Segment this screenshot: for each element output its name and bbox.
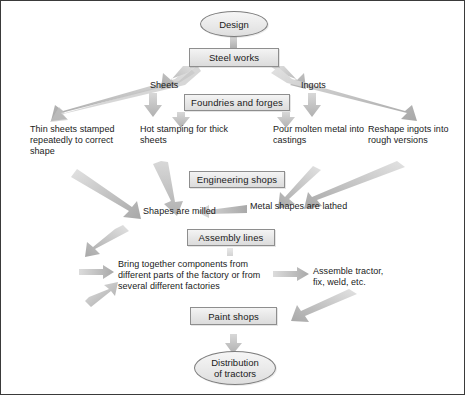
label-sheets: Sheets	[150, 80, 178, 91]
node-foundries-label: Foundries and forges	[191, 97, 283, 108]
node-steel-works-label: Steel works	[209, 52, 259, 63]
arrow-milled-to-bring-together	[85, 225, 129, 257]
arrow-assembly-lines-down	[227, 248, 233, 256]
label-sheets-text: Sheets	[150, 80, 178, 90]
label-bring-together-line1: Bring together components from	[118, 259, 303, 270]
label-reshape-ingots-line1: Reshape ingots into	[368, 124, 463, 135]
label-thin-sheets-line3: shape	[30, 146, 135, 157]
label-ingots-text: Ingots	[301, 80, 326, 90]
label-bring-together-line2: different parts of the factory or from	[118, 270, 303, 281]
label-thin-sheets-line2: repeatedly to correct	[30, 135, 135, 146]
label-hot-stamping-line2: sheets	[140, 135, 250, 146]
node-assembly-lines[interactable]: Assembly lines	[187, 229, 275, 246]
label-metal-shapes-lathed: Metal shapes are lathed	[250, 201, 400, 212]
label-reshape-ingots: Reshape ingots into rough versions	[368, 124, 463, 146]
arrow-feed-bring-together-lower	[85, 282, 118, 307]
node-distribution-of-tractors[interactable]: Distribution of tractors	[194, 351, 276, 385]
label-hot-stamping: Hot stamping for thick sheets	[140, 124, 250, 146]
arrow-ingots-down	[303, 93, 321, 117]
label-shapes-milled-line1: Shapes are milled	[143, 206, 253, 217]
node-engineering-shops[interactable]: Engineering shops	[189, 171, 285, 188]
label-assemble-tractor: Assemble tractor, fix, weld, etc.	[313, 266, 408, 288]
node-foundries-and-forges[interactable]: Foundries and forges	[184, 94, 290, 111]
diagram-canvas: Design Steel works Foundries and forges …	[0, 0, 465, 395]
label-thin-sheets-stamped: Thin sheets stamped repeatedly to correc…	[30, 124, 135, 158]
arrow-steelworks-to-reshape	[271, 67, 417, 121]
node-distribution-line1: Distribution	[211, 357, 259, 368]
label-thin-sheets-line1: Thin sheets stamped	[30, 124, 135, 135]
node-steel-works[interactable]: Steel works	[189, 48, 279, 67]
label-bring-together-components: Bring together components from different…	[118, 259, 303, 293]
node-distribution-line2: of tractors	[214, 368, 256, 379]
arrow-assemble-to-paint-shops	[291, 289, 357, 322]
node-paint-shops-label: Paint shops	[208, 311, 259, 322]
arrow-feed-bring-together-middle	[79, 265, 114, 279]
node-assembly-lines-label: Assembly lines	[199, 232, 264, 243]
node-paint-shops[interactable]: Paint shops	[190, 307, 277, 325]
label-assemble-tractor-line1: Assemble tractor,	[313, 266, 408, 277]
label-bring-together-line3: several different factories	[118, 281, 303, 292]
node-engineering-shops-label: Engineering shops	[197, 174, 277, 185]
label-hot-stamping-line1: Hot stamping for thick	[140, 124, 250, 135]
label-reshape-ingots-line2: rough versions	[368, 135, 463, 146]
label-ingots: Ingots	[301, 80, 326, 91]
label-metal-lathed-line1: Metal shapes are lathed	[250, 201, 400, 212]
arrow-sheets-down	[144, 93, 162, 117]
node-design-label: Design	[219, 19, 249, 30]
label-assemble-tractor-line2: fix, weld, etc.	[313, 277, 408, 288]
arrow-thin-sheets-to-milled	[71, 169, 141, 219]
label-shapes-are-milled: Shapes are milled	[143, 206, 253, 217]
node-design[interactable]: Design	[200, 11, 268, 37]
arrow-design-to-steel-works	[230, 36, 237, 48]
